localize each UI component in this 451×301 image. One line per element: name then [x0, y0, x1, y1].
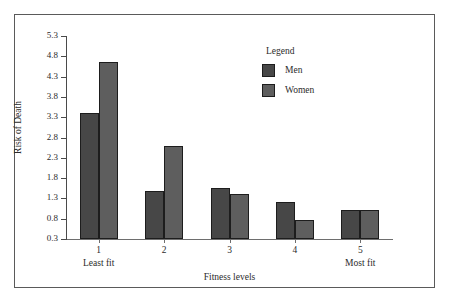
bar-women-level-4	[295, 220, 314, 239]
y-tick-label: 0.3	[36, 234, 58, 243]
legend-entry-men: Men	[262, 64, 382, 77]
y-tick-label: 3.3	[36, 112, 58, 121]
x-tick-label: 2	[134, 245, 194, 256]
bar-men-level-5	[341, 210, 360, 239]
x-tick-mark	[360, 239, 361, 243]
y-tick-mark	[61, 178, 67, 179]
bar-women-level-5	[360, 210, 379, 239]
y-tick-mark	[61, 158, 67, 159]
bar-women-level-3	[230, 194, 249, 239]
x-tick-label: 4	[265, 245, 325, 256]
bar-men-level-2	[145, 191, 164, 239]
y-axis-title: Risk of Death	[13, 82, 24, 174]
x-tick-label: 3	[200, 245, 260, 256]
y-tick-label: 4.8	[36, 51, 58, 60]
x-tick-mark	[164, 239, 165, 243]
x-tick-sublabel: Most fit	[320, 258, 400, 269]
y-tick-label: 5.3	[36, 31, 58, 40]
y-tick-label: 1.8	[36, 173, 58, 182]
bar-women-level-1	[99, 62, 118, 239]
y-tick-mark	[61, 117, 67, 118]
legend: Legend MenWomen	[262, 46, 382, 104]
y-tick-label: 3.8	[36, 92, 58, 101]
y-tick-label: 2.8	[36, 133, 58, 142]
y-tick-label: 1.3	[36, 193, 58, 202]
bar-men-level-4	[276, 202, 295, 239]
x-tick-mark	[295, 239, 296, 243]
legend-entry-women: Women	[262, 84, 382, 97]
bar-men-level-1	[80, 113, 99, 239]
bar-men-level-3	[211, 188, 230, 239]
y-tick-label: 2.3	[36, 153, 58, 162]
legend-label-men: Men	[285, 65, 302, 76]
y-tick-mark	[61, 239, 67, 240]
x-tick-sublabel: Least fit	[59, 258, 139, 269]
y-tick-label: 4.3	[36, 72, 58, 81]
x-tick-mark	[230, 239, 231, 243]
legend-label-women: Women	[285, 85, 314, 96]
y-tick-mark	[61, 77, 67, 78]
x-axis-title: Fitness levels	[66, 272, 393, 283]
y-tick-mark	[61, 219, 67, 220]
x-tick-mark	[99, 239, 100, 243]
x-tick-label: 5	[330, 245, 390, 256]
bar-women-level-2	[164, 146, 183, 239]
legend-swatch-women	[262, 84, 275, 97]
legend-swatch-men	[262, 64, 275, 77]
legend-entries: MenWomen	[262, 64, 382, 97]
plot-area: 0.30.81.31.82.32.83.33.84.34.85.3 1Least…	[0, 0, 451, 301]
figure: 0.30.81.31.82.32.83.33.84.34.85.3 1Least…	[0, 0, 451, 301]
y-tick-mark	[61, 97, 67, 98]
y-tick-mark	[61, 138, 67, 139]
x-tick-label: 1	[69, 245, 129, 256]
y-tick-label: 0.8	[36, 214, 58, 223]
y-tick-mark	[61, 36, 67, 37]
y-tick-mark	[61, 198, 67, 199]
y-tick-mark	[61, 56, 67, 57]
legend-title: Legend	[266, 46, 382, 57]
